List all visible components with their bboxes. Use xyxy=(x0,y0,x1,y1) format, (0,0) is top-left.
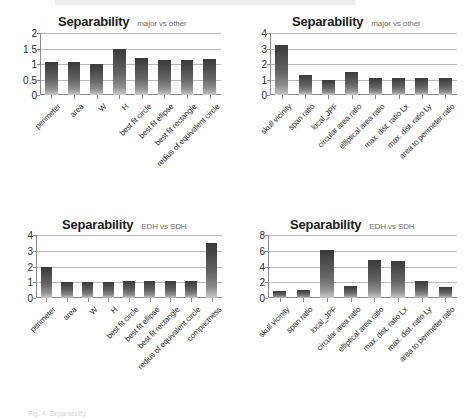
x-tick-mark xyxy=(280,298,281,302)
bar xyxy=(123,281,135,298)
x-tick-mark xyxy=(164,95,165,99)
figure-grid: Separability major vs other 00.511.52 pe… xyxy=(0,0,469,418)
bar-slot xyxy=(386,235,410,298)
chart-panel-bottom-left: Separability EDH vs SDH 01234 perimetera… xyxy=(0,205,235,418)
x-tick-mark xyxy=(129,298,130,302)
y-tick-label: 1 xyxy=(27,277,33,288)
x-axis-category-label: W xyxy=(87,305,99,317)
chart-subtitle: major vs other xyxy=(137,19,186,28)
bar xyxy=(144,281,156,298)
bar-slot xyxy=(270,33,293,95)
x-tick-mark xyxy=(375,95,376,99)
chart-title: Separability xyxy=(292,14,363,29)
bar-slot xyxy=(434,33,457,95)
bar-slot xyxy=(77,235,98,298)
y-tick-label: 4 xyxy=(27,230,33,241)
x-tick-mark xyxy=(119,95,120,99)
x-tick-mark xyxy=(108,298,109,302)
x-tick-mark xyxy=(88,298,89,302)
bar-slot xyxy=(268,235,292,298)
chart-panel-bottom-right: Separability EDH vs SDH 02468 skull vici… xyxy=(235,205,469,418)
x-tick-mark xyxy=(398,298,399,302)
x-axis-category-label: W xyxy=(96,102,108,114)
x-tick-mark xyxy=(303,298,304,302)
x-tick-mark xyxy=(46,298,47,302)
chart-panel-top-left: Separability major vs other 00.511.52 pe… xyxy=(0,0,235,205)
y-tick-label: 1.5 xyxy=(23,43,37,54)
bar xyxy=(391,261,404,298)
x-tick-mark xyxy=(422,298,423,302)
bar-slot xyxy=(36,235,57,298)
x-tick-mark xyxy=(150,298,151,302)
x-axis-category-label: perimeter xyxy=(34,102,63,131)
x-tick-mark xyxy=(212,298,213,302)
x-tick-mark xyxy=(187,95,188,99)
y-tick-label: 3 xyxy=(261,43,267,54)
y-tick-label: 2 xyxy=(261,59,267,70)
bar-slot xyxy=(340,33,363,95)
bar xyxy=(275,45,288,95)
bar xyxy=(82,282,94,298)
x-tick-mark xyxy=(97,95,98,99)
x-tick-mark xyxy=(374,298,375,302)
bar xyxy=(320,250,333,298)
bar-slot xyxy=(119,235,140,298)
bar-slot xyxy=(40,33,63,95)
chart-title-row-bottom-left: Separability EDH vs SDH xyxy=(62,217,187,232)
bar-slot xyxy=(160,235,181,298)
x-tick-mark xyxy=(210,95,211,99)
x-axis-category-label: H xyxy=(120,102,130,112)
y-tick-label: 1 xyxy=(261,74,267,85)
figure-caption: Fig. 4. Separability xyxy=(28,410,86,417)
bar xyxy=(185,281,197,298)
bar-slot xyxy=(410,235,434,298)
bar xyxy=(158,60,171,95)
bar xyxy=(41,267,53,299)
bar xyxy=(322,80,335,96)
x-tick-mark xyxy=(282,95,283,99)
y-tick-label: 0 xyxy=(261,90,267,101)
bar xyxy=(103,282,115,298)
y-tick-label: 1 xyxy=(31,59,37,70)
x-tick-mark xyxy=(445,298,446,302)
x-axis-category-label: area xyxy=(68,102,85,119)
plot-area-bottom-right: 02468 xyxy=(268,235,457,298)
bar xyxy=(203,59,216,95)
bar xyxy=(45,62,58,95)
bar xyxy=(299,75,312,95)
bar-slot xyxy=(85,33,108,95)
bar-slot xyxy=(317,33,340,95)
bar xyxy=(392,78,405,95)
bar xyxy=(344,286,357,298)
plot-area-bottom-left: 01234 xyxy=(36,235,222,298)
figure-page: { "figure": { "caption": "Fig. 4. Separa… xyxy=(0,0,469,418)
bar-slot xyxy=(315,235,339,298)
y-tick-mark xyxy=(37,95,40,96)
x-tick-mark xyxy=(170,298,171,302)
bar-slot xyxy=(181,235,202,298)
y-tick-label: 4 xyxy=(261,28,267,39)
bar-slot xyxy=(153,33,176,95)
bar xyxy=(135,58,148,95)
bar xyxy=(68,62,81,95)
bar xyxy=(415,78,428,95)
x-tick-mark xyxy=(142,95,143,99)
y-tick-label: 3 xyxy=(27,245,33,256)
chart-title: Separability xyxy=(290,217,361,232)
y-tick-label: 0.5 xyxy=(23,74,37,85)
bar-slot xyxy=(201,235,222,298)
chart-subtitle: major vs other xyxy=(371,19,420,28)
bar xyxy=(369,78,382,95)
x-tick-mark xyxy=(305,95,306,99)
x-axis-category-label: skull vicinity xyxy=(257,305,291,339)
x-tick-mark xyxy=(327,298,328,302)
x-tick-mark xyxy=(191,298,192,302)
bar xyxy=(439,287,452,298)
bar-slot xyxy=(63,33,86,95)
bar xyxy=(206,243,218,298)
bar-series xyxy=(268,235,457,298)
bar-series xyxy=(270,33,457,95)
plot-area-top-right: 01234 xyxy=(270,33,457,95)
bar-slot xyxy=(387,33,410,95)
bar xyxy=(113,49,126,95)
